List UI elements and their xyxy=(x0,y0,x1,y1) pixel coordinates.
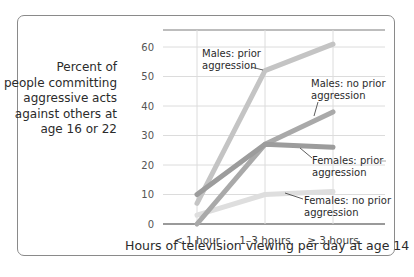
annotation-females-no-prior: Females: no prior xyxy=(304,195,392,206)
annotation-males-prior: aggression xyxy=(202,60,257,71)
y-tick-label: 60 xyxy=(141,42,154,53)
annotation-males-no-prior: aggression xyxy=(311,90,366,101)
y-tick-label: 0 xyxy=(148,219,154,230)
y-tick-label: 30 xyxy=(141,130,154,141)
annotation-females-no-prior: aggression xyxy=(304,207,359,218)
y-tick-label: 40 xyxy=(141,101,154,112)
annotation-females-prior: aggression xyxy=(312,167,367,178)
leader-line xyxy=(300,148,312,158)
y-tick-label: 20 xyxy=(141,160,154,171)
y-tick-label: 10 xyxy=(141,189,154,200)
annotation-males-no-prior: Males: no prior xyxy=(311,78,386,89)
annotation-females-prior: Females: prior xyxy=(312,155,384,166)
y-tick-label: 50 xyxy=(141,71,154,82)
annotation-males-prior: Males: prior xyxy=(202,48,262,59)
leader-line xyxy=(314,102,318,116)
x-axis-label: Hours of television viewing per day at a… xyxy=(125,238,414,253)
